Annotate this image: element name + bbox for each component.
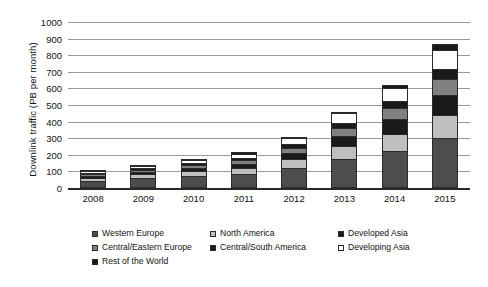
bar-segment[interactable]: [130, 178, 156, 188]
bar-segment[interactable]: [382, 101, 408, 108]
y-axis-tick-label: 800: [46, 50, 62, 61]
legend-label: North America: [220, 228, 274, 239]
legend-swatch-icon: [92, 259, 98, 265]
y-axis-tick-label: 900: [46, 33, 62, 44]
legend-item[interactable]: Central/South America: [210, 242, 338, 253]
bar-series-container: [68, 22, 470, 188]
legend-label: Central/Eastern Europe: [102, 242, 192, 253]
bar-segment[interactable]: [382, 119, 408, 134]
chart-legend: Western EuropeNorth AmericaDeveloped Asi…: [92, 228, 452, 267]
plot-area: 01002003004005006007008009001000: [68, 22, 470, 188]
legend-item[interactable]: North America: [210, 228, 338, 239]
bar-segment[interactable]: [382, 151, 408, 188]
bar-segment[interactable]: [331, 128, 357, 136]
y-axis-tick-label: 200: [46, 149, 62, 160]
bar-column[interactable]: [231, 22, 257, 188]
legend-item[interactable]: Developed Asia: [338, 228, 452, 239]
bar-segment[interactable]: [281, 159, 307, 168]
bar-segment[interactable]: [80, 181, 106, 188]
bar-segment[interactable]: [382, 88, 408, 101]
bar-segment[interactable]: [181, 176, 207, 188]
legend-swatch-icon: [92, 231, 98, 237]
bar-column[interactable]: [281, 22, 307, 188]
y-axis-tick-label: 600: [46, 83, 62, 94]
legend-item[interactable]: Western Europe: [92, 228, 210, 239]
bar-segment[interactable]: [331, 146, 357, 159]
y-axis-tick-label: 1000: [41, 17, 62, 28]
x-axis-tick-label: 2008: [83, 193, 104, 204]
bar-segment[interactable]: [281, 168, 307, 188]
x-axis-tick-label: 2011: [234, 193, 254, 204]
legend-swatch-icon: [210, 245, 216, 251]
x-axis-tick-label: 2012: [284, 193, 305, 204]
bar-segment[interactable]: [432, 115, 458, 138]
bar-column[interactable]: [432, 22, 458, 188]
legend-label: Developing Asia: [348, 242, 410, 253]
stacked-bar[interactable]: [80, 170, 106, 188]
legend-label: Western Europe: [102, 228, 164, 239]
bar-segment[interactable]: [432, 138, 458, 188]
legend-label: Central/South America: [220, 242, 306, 253]
stacked-bar[interactable]: [181, 159, 207, 188]
x-axis-tick-label: 2014: [384, 193, 405, 204]
bar-segment[interactable]: [331, 113, 357, 122]
bar-column[interactable]: [130, 22, 156, 188]
stacked-bar[interactable]: [432, 44, 458, 188]
y-axis-tick-label: 0: [57, 183, 62, 194]
x-axis-tick-label: 2015: [434, 193, 455, 204]
x-axis-tick-label: 2009: [133, 193, 154, 204]
y-axis-tick-label: 100: [46, 166, 62, 177]
bar-segment[interactable]: [231, 174, 257, 188]
y-axis-tick-label: 700: [46, 66, 62, 77]
stacked-bar-chart: Downlink traffic (PB per month) 01002003…: [0, 0, 488, 287]
legend-item[interactable]: Developing Asia: [338, 242, 452, 253]
y-axis-tick-label: 500: [46, 100, 62, 111]
legend-swatch-icon: [210, 231, 216, 237]
bar-column[interactable]: [382, 22, 408, 188]
bar-segment[interactable]: [432, 79, 458, 95]
y-axis-tick-label: 400: [46, 116, 62, 127]
bar-column[interactable]: [181, 22, 207, 188]
y-axis-title: Downlink traffic (PB per month): [27, 10, 38, 210]
stacked-bar[interactable]: [281, 137, 307, 188]
x-axis-tick-label: 2013: [334, 193, 355, 204]
legend-label: Developed Asia: [348, 228, 408, 239]
bar-column[interactable]: [331, 22, 357, 188]
x-axis-tick-label: 2010: [183, 193, 204, 204]
bar-segment[interactable]: [382, 134, 408, 151]
bar-segment[interactable]: [432, 95, 458, 115]
legend-item[interactable]: Central/Eastern Europe: [92, 242, 210, 253]
stacked-bar[interactable]: [331, 112, 357, 188]
legend-swatch-icon: [338, 231, 344, 237]
legend-item[interactable]: Rest of the World: [92, 256, 210, 267]
stacked-bar[interactable]: [382, 85, 408, 188]
axis-baseline: [68, 188, 470, 190]
bar-segment[interactable]: [382, 108, 408, 119]
y-axis-tick-label: 300: [46, 133, 62, 144]
legend-label: Rest of the World: [102, 256, 168, 267]
stacked-bar[interactable]: [130, 165, 156, 188]
bar-segment[interactable]: [331, 136, 357, 146]
bar-column[interactable]: [80, 22, 106, 188]
legend-swatch-icon: [338, 245, 344, 251]
bar-segment[interactable]: [432, 69, 458, 79]
bar-segment[interactable]: [432, 50, 458, 69]
legend-swatch-icon: [92, 245, 98, 251]
stacked-bar[interactable]: [231, 152, 257, 188]
bar-segment[interactable]: [331, 159, 357, 188]
